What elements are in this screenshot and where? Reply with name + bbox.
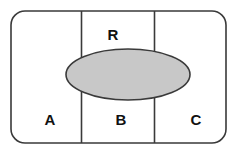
label-region-a: A — [45, 111, 56, 128]
set-diagram-canvas: R A B C — [0, 0, 239, 151]
set-r-ellipse — [66, 49, 190, 100]
set-diagram-figure: R A B C — [0, 0, 239, 151]
label-region-b: B — [116, 111, 127, 128]
label-set-r: R — [108, 26, 119, 43]
label-region-c: C — [191, 111, 202, 128]
